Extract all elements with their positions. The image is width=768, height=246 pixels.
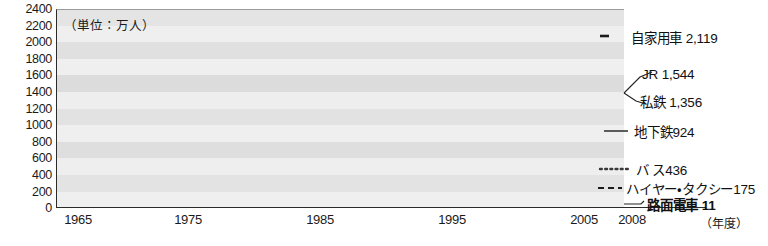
series-label-private-rail: 私鉄 1,356 <box>640 96 702 110</box>
grid-band <box>56 142 624 159</box>
y-tick-label: 400 <box>32 169 52 182</box>
y-tick-label: 600 <box>32 152 52 165</box>
y-axis-labels: 2400 2200 2000 1800 1600 1400 1200 1000 … <box>0 0 52 246</box>
fiscal-year-caption: （年度） <box>700 214 748 231</box>
series-label-private-car: 自家用車 2,119 <box>631 32 718 46</box>
grid-band <box>56 175 624 192</box>
series-label-bus: バ ス436 <box>636 164 687 178</box>
grid-band <box>56 59 624 76</box>
x-axis-line <box>56 207 706 208</box>
y-tick-label: 1600 <box>25 69 52 82</box>
y-tick-label: 1200 <box>25 103 52 116</box>
x-tick-label: 1965 <box>64 213 92 226</box>
grid-band <box>56 158 624 175</box>
series-label-taxi: ハイヤー・タクシー175 <box>626 183 755 197</box>
grid-band <box>56 125 624 142</box>
x-tick-label: 1995 <box>438 213 466 226</box>
y-tick-label: 2400 <box>25 3 52 16</box>
x-tick-label: 1985 <box>306 213 334 226</box>
unit-caption: （単位：万人） <box>64 15 155 34</box>
y-tick-label: 1800 <box>25 53 52 66</box>
x-tick-label: 2008 <box>618 213 646 226</box>
y-tick-label: 1000 <box>25 119 52 132</box>
series-label-subway: 地下鉄924 <box>634 126 694 140</box>
grid-band <box>56 192 624 208</box>
y-tick-label: 1400 <box>25 86 52 99</box>
grid-band <box>56 92 624 109</box>
series-label-jr: JR 1,544 <box>642 68 694 82</box>
x-tick-label: 2005 <box>570 213 598 226</box>
x-tick-label: 1975 <box>174 213 202 226</box>
grid-band <box>56 42 624 59</box>
y-tick-label: 0 <box>45 202 52 215</box>
chart-figure: （単位：万人） 2400 2200 2000 1800 1600 1400 12… <box>0 0 768 246</box>
y-tick-label: 2000 <box>25 36 52 49</box>
series-label-tram: 路面電車 11 <box>647 199 716 213</box>
y-tick-label: 200 <box>32 186 52 199</box>
grid-band <box>56 109 624 126</box>
grid-band <box>56 75 624 92</box>
y-tick-label: 800 <box>32 136 52 149</box>
y-tick-label: 2200 <box>25 20 52 33</box>
plot-area <box>56 9 624 208</box>
